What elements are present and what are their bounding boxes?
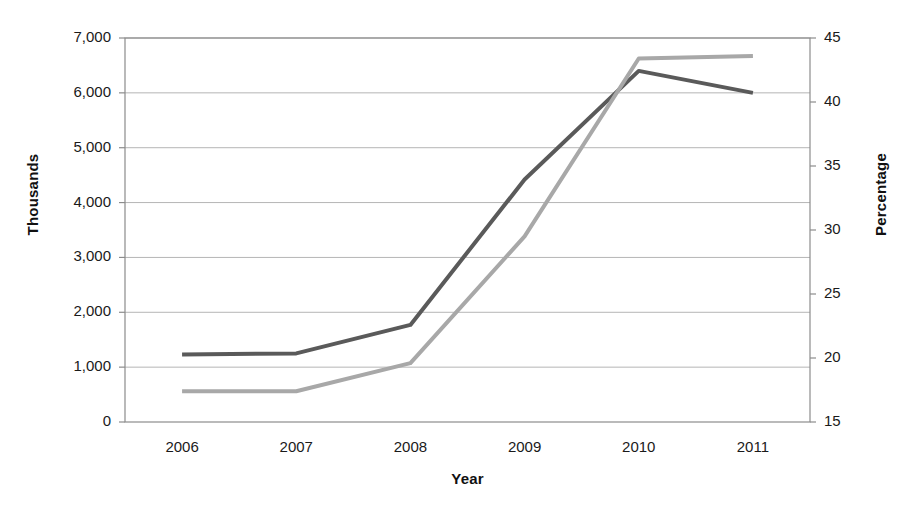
line-chart: Thousands Percentage Year 01,0002,0003,0… — [0, 0, 910, 511]
plot-area — [0, 0, 910, 511]
y-axis-left-tick-label: 4,000 — [41, 193, 111, 210]
series-line-2 — [182, 56, 753, 391]
y-axis-left-tick-label: 5,000 — [41, 138, 111, 155]
y-axis-right-tick-label: 30 — [824, 220, 894, 237]
y-axis-left-tick-label: 7,000 — [41, 28, 111, 45]
series-layer — [182, 56, 753, 391]
x-axis-tick-label: 2007 — [251, 438, 341, 455]
y-axis-left-tick-label: 3,000 — [41, 247, 111, 264]
y-axis-left-tick-label: 2,000 — [41, 302, 111, 319]
plot-frame — [125, 38, 810, 422]
y-axis-right-title: Percentage — [872, 115, 889, 275]
y-axis-left-title: Thousands — [24, 115, 41, 275]
y-axis-right-tick-label: 20 — [824, 348, 894, 365]
x-axis-title: Year — [125, 470, 810, 487]
x-axis-tick-label: 2010 — [594, 438, 684, 455]
y-axis-left-ticks — [119, 38, 125, 422]
plot-border — [125, 38, 810, 422]
y-axis-right-tick-label: 45 — [824, 28, 894, 45]
y-axis-right-tick-label: 25 — [824, 284, 894, 301]
x-axis-tick-label: 2008 — [365, 438, 455, 455]
gridlines — [125, 38, 810, 367]
y-axis-right-tick-label: 40 — [824, 92, 894, 109]
y-axis-left-tick-label: 6,000 — [41, 83, 111, 100]
x-axis-tick-label: 2011 — [708, 438, 798, 455]
y-axis-left-tick-label: 1,000 — [41, 357, 111, 374]
y-axis-left-tick-label: 0 — [41, 412, 111, 429]
x-axis-tick-label: 2009 — [480, 438, 570, 455]
x-axis-tick-label: 2006 — [137, 438, 227, 455]
y-axis-right-ticks — [810, 38, 816, 422]
y-axis-right-tick-label: 35 — [824, 156, 894, 173]
y-axis-right-tick-label: 15 — [824, 412, 894, 429]
